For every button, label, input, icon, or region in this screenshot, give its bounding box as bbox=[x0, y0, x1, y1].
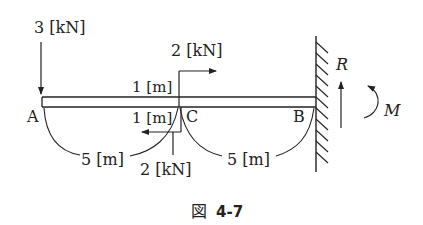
upper-load-arrow-icon bbox=[179, 71, 216, 107]
reaction-moment-arrow-icon bbox=[364, 86, 378, 118]
left-load-label: 3 [kN] bbox=[34, 18, 85, 37]
upper-load-label: 2 [kN] bbox=[171, 41, 222, 60]
span-a-c-label: 5 [m] bbox=[81, 150, 124, 169]
span-c-b-label: 5 [m] bbox=[227, 150, 270, 169]
lower-arm-label: 1 [m] bbox=[132, 109, 172, 127]
figure-caption-number: 4-7 bbox=[216, 203, 243, 221]
reaction-force-label: R bbox=[335, 55, 348, 74]
beam-diagram: 3 [kN] 2 [kN] 1 [m] 1 [m] 2 [kN] A C B 5… bbox=[0, 0, 423, 225]
point-a-label: A bbox=[26, 107, 39, 126]
fixed-wall-icon bbox=[316, 36, 328, 172]
upper-arm-label: 1 [m] bbox=[132, 78, 172, 96]
figure-caption-prefix: 図 bbox=[191, 202, 207, 221]
point-b-label: B bbox=[293, 107, 305, 126]
reaction-moment-label: M bbox=[383, 101, 401, 120]
point-c-label: C bbox=[186, 107, 198, 126]
lower-load-label: 2 [kN] bbox=[140, 160, 191, 179]
